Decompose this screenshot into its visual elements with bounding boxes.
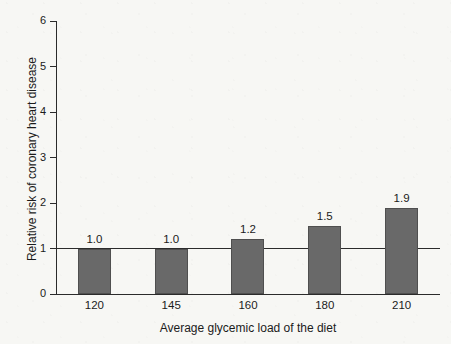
x-axis-tick-label: 145 [133,299,210,312]
bar[interactable] [231,239,264,294]
x-axis-tick-label: 120 [56,299,133,312]
bar-value-label: 1.0 [133,233,210,245]
bar-value-label: 1.9 [363,192,440,204]
bar[interactable] [385,208,418,294]
bar-value-label: 1.0 [56,233,133,245]
y-axis-title: Relative risk of coronary heart disease [25,39,39,279]
bar-slot: 1.2 [210,21,287,294]
plot-area: 1.01.01.21.51.9 [56,21,440,294]
chart-figure: 0123456 1.01.01.21.51.9 120145160180210 … [0,0,451,344]
x-axis-title: Average glycemic load of the diet [56,321,440,335]
x-axis-tick-label: 210 [363,299,440,312]
x-axis-line [56,294,440,295]
bar-value-label: 1.2 [210,223,287,235]
x-axis-tick-label: 160 [210,299,287,312]
bar-value-label: 1.5 [286,210,363,222]
bar-slot: 1.0 [56,21,133,294]
bar-slot: 1.5 [286,21,363,294]
bar[interactable] [308,226,341,294]
y-axis-tick-label: 0 [24,288,46,299]
bar-slot: 1.9 [363,21,440,294]
bar[interactable] [155,249,188,295]
y-axis-tick-label: 6 [24,15,46,26]
x-axis-tick-label: 180 [286,299,363,312]
bar-slot: 1.0 [133,21,210,294]
bar[interactable] [78,249,111,295]
